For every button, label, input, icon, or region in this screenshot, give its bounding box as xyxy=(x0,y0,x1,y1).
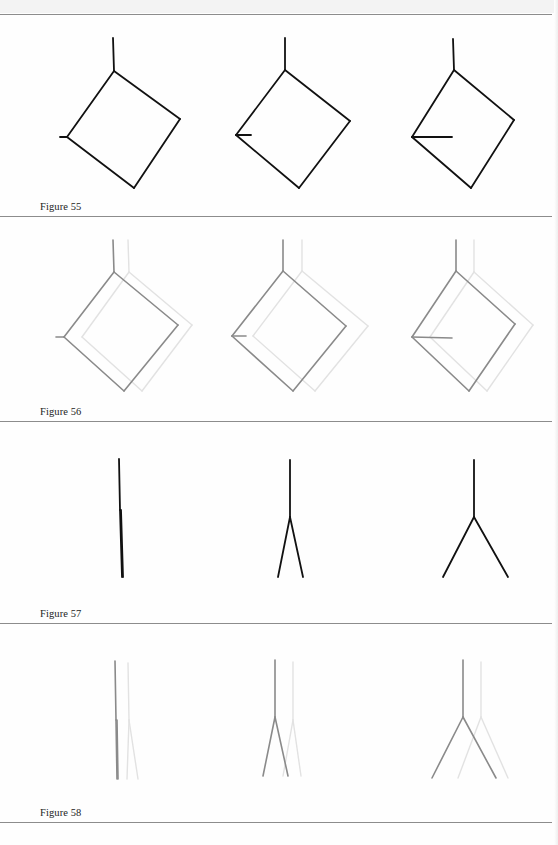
figure-56-drawings xyxy=(0,216,558,421)
book-page: Figure 55 Figure 56 Figure 57 Figure 58 xyxy=(0,0,558,845)
ghost-stroke xyxy=(129,272,192,325)
main-stroke xyxy=(67,71,114,137)
main-stroke xyxy=(432,717,463,778)
ghost-stroke xyxy=(293,720,301,776)
main-stroke xyxy=(263,717,275,776)
figure-58-panel-2 xyxy=(263,660,301,776)
main-stroke xyxy=(293,326,346,391)
main-stroke xyxy=(232,271,283,336)
separator-rule-4 xyxy=(0,822,552,823)
main-stroke xyxy=(64,337,124,391)
main-stroke xyxy=(119,459,120,510)
scan-top-band xyxy=(0,0,558,13)
main-stroke xyxy=(463,717,496,778)
main-stroke xyxy=(134,119,180,188)
main-stroke xyxy=(67,137,134,188)
figure-58-panel-3 xyxy=(432,660,508,778)
ghost-stroke xyxy=(302,271,368,326)
main-stroke xyxy=(290,517,303,577)
ghost-stroke xyxy=(128,663,129,720)
main-stroke xyxy=(412,337,452,338)
main-stroke xyxy=(275,717,288,776)
figure-55-panel-2 xyxy=(236,38,350,188)
figure-58-caption: Figure 58 xyxy=(40,807,81,818)
main-stroke xyxy=(299,121,350,188)
main-stroke xyxy=(283,271,346,326)
main-stroke xyxy=(285,70,350,121)
main-stroke xyxy=(124,325,178,391)
main-stroke xyxy=(412,137,471,188)
main-stroke xyxy=(113,38,114,71)
figure-57-caption: Figure 57 xyxy=(40,608,81,619)
figure-55-caption: Figure 55 xyxy=(40,201,81,212)
ghost-stroke xyxy=(127,720,129,779)
main-stroke xyxy=(117,720,118,779)
main-stroke xyxy=(114,71,180,119)
main-stroke xyxy=(469,324,515,391)
main-stroke xyxy=(412,337,469,391)
main-stroke xyxy=(453,39,454,70)
figure-57-drawings xyxy=(0,421,558,623)
ghost-stroke xyxy=(487,325,533,391)
main-stroke xyxy=(443,517,474,577)
figure-55-drawings xyxy=(0,14,558,216)
ghost-stroke xyxy=(430,337,487,391)
ghost-stroke xyxy=(128,240,129,272)
figure-55-panel-1 xyxy=(60,38,180,188)
main-stroke xyxy=(113,240,114,272)
ghost-stroke xyxy=(129,720,138,779)
ghost-stroke xyxy=(458,717,481,778)
figure-55-panel-3 xyxy=(412,39,514,188)
figure-58-drawings xyxy=(0,623,558,822)
main-stroke xyxy=(115,661,116,720)
figure-56-panel-3 xyxy=(412,240,533,391)
figure-58-panel-1 xyxy=(115,661,138,779)
main-stroke xyxy=(236,135,299,188)
main-stroke xyxy=(474,517,508,577)
figure-56-caption: Figure 56 xyxy=(40,406,81,417)
main-stroke xyxy=(454,70,514,120)
main-stroke xyxy=(278,517,290,577)
figure-57-panel-1 xyxy=(119,459,123,577)
ghost-stroke xyxy=(82,337,142,391)
main-stroke xyxy=(412,271,456,337)
main-stroke xyxy=(114,272,178,325)
ghost-stroke xyxy=(481,717,508,778)
figure-56-panel-1 xyxy=(56,240,192,391)
main-stroke xyxy=(471,120,514,188)
ghost-stroke xyxy=(315,326,368,391)
ghost-stroke xyxy=(142,325,192,391)
ghost-stroke xyxy=(283,720,293,776)
figure-57-panel-2 xyxy=(278,460,303,577)
figure-56-panel-2 xyxy=(232,240,368,391)
main-stroke xyxy=(456,271,515,324)
ghost-stroke xyxy=(474,272,533,325)
main-stroke xyxy=(236,70,285,135)
figure-57-panel-3 xyxy=(443,460,508,577)
main-stroke xyxy=(412,70,454,137)
